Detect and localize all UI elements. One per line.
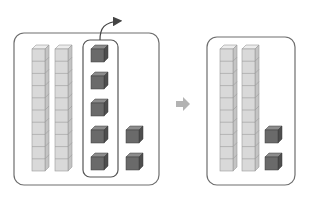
unit-cube: [126, 126, 143, 143]
unit-cube: [91, 126, 108, 143]
unit-cube: [265, 153, 282, 170]
unit-cube: [265, 126, 282, 143]
left-tens-rods: [32, 45, 72, 171]
right-unit-cubes: [265, 126, 282, 170]
right-panel: [207, 37, 295, 185]
base-ten-diagram: [0, 0, 312, 200]
tens-rod: [220, 45, 237, 171]
tens-rod: [32, 45, 49, 171]
tens-rod: [55, 45, 72, 171]
unit-cube: [91, 45, 108, 62]
tens-rod: [242, 45, 259, 171]
unit-cube: [91, 72, 108, 89]
transition-arrow-icon: [176, 97, 190, 111]
left-panel: [14, 21, 159, 185]
unit-cube: [91, 99, 108, 116]
right-tens-rods: [220, 45, 259, 171]
unit-cube: [91, 153, 108, 170]
unit-cube: [126, 153, 143, 170]
removal-arrow-icon: [100, 21, 120, 40]
left-unit-cubes: [91, 45, 143, 170]
